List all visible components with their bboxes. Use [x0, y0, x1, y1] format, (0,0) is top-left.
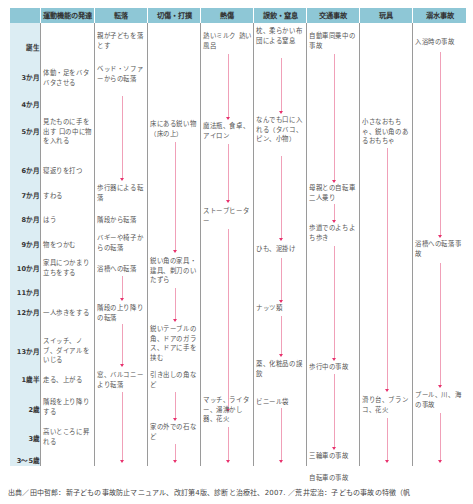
motor-cell: すわる: [43, 192, 93, 202]
falls-cell: 階段の上り降りの転落: [97, 304, 146, 323]
choking-cell: ひも、泥掛け: [256, 245, 305, 255]
motor-cell: 物をつかむ: [43, 241, 93, 251]
age-label: 13か月: [10, 348, 40, 357]
choking-cell: 薬、化粧品の誤飲: [256, 360, 305, 379]
continuation-arrow: [281, 58, 282, 113]
continuation-arrow: [281, 156, 282, 240]
age-label: 2歳: [10, 406, 40, 415]
divider: [40, 23, 41, 466]
traffic-cell: 歩行中の事故: [309, 363, 358, 373]
choking-cell: なんでも口に入れる（タバコ、ピン、小物）: [256, 116, 305, 145]
motor-cell: 見たものに手を出す 口の中に物を入れる: [43, 118, 93, 147]
divider: [306, 23, 307, 466]
continuation-arrow: [387, 418, 388, 462]
burns-cell: ストーブヒーター: [203, 207, 252, 226]
continuation-arrow: [228, 427, 229, 462]
divider: [359, 23, 360, 466]
falls-cell: 親が子どもを落とす: [97, 32, 146, 51]
age-label: 7か月: [10, 192, 40, 201]
source-citation: 出典／田中哲郎：新子どもの事故防止マニュアル、改訂第4版、診断と治療社、2007…: [8, 487, 473, 497]
traffic-cell: 母親との自転車二人乗り: [309, 184, 358, 203]
divider: [200, 23, 201, 466]
continuation-arrow: [440, 52, 441, 237]
continuation-arrow: [281, 408, 282, 462]
age-label: 8か月: [10, 216, 40, 225]
choking-cell: ナッツ類: [256, 304, 305, 314]
falls-cell: 窓、バルコニーより転落: [97, 371, 146, 390]
choking-cell: ビニール袋: [256, 398, 305, 408]
age-label: 11か月: [10, 289, 40, 298]
header-traffic: 交通事故: [307, 8, 359, 23]
continuation-arrow: [440, 413, 441, 462]
motor-cell: 体動・足をバタバタさせる: [43, 69, 93, 88]
divider: [147, 23, 148, 466]
header-corner: [10, 8, 40, 23]
age-label: 9か月: [10, 241, 40, 250]
continuation-arrow: [228, 144, 229, 202]
traffic-cell: 歩道でのよちよち歩き: [309, 224, 358, 243]
header-burns: 熱傷: [201, 8, 253, 23]
traffic-cell: 三輪車の事故: [309, 452, 358, 462]
continuation-arrow: [334, 204, 335, 222]
falls-cell: ベッド・ソファーからの転落: [97, 65, 146, 84]
falls-cell: 歩行器による転落: [97, 184, 146, 203]
age-label: 3歳: [10, 435, 40, 444]
continuation-arrow: [122, 324, 123, 366]
continuation-arrow: [228, 54, 229, 119]
header-toys: 玩具: [360, 8, 412, 23]
falls-cell: 浴槽への転落: [97, 265, 146, 275]
continuation-arrow: [175, 444, 176, 462]
motor-cell: 走る、上がる: [43, 376, 93, 386]
cuts-cell: 引き出しの角など: [150, 371, 199, 390]
toys-cell: 小さなおもちゃ、鋭い角のあるおもちゃ: [362, 118, 411, 147]
age-label: 1歳半: [10, 376, 40, 385]
continuation-arrow: [122, 392, 123, 462]
cuts-cell: 床にある鋭い物（床の上）: [150, 120, 199, 139]
cuts-cell: 鋭いテーブルの角、ドアのガラス、ドアに手を挟む: [150, 325, 199, 363]
age-label: 6か月: [10, 167, 40, 176]
header-motor: 運動機能の発達: [41, 8, 94, 23]
accident-age-table: 運動機能の発達 転落 切傷・打撲 熱傷 誤飲・窒息 交通事故 玩具 溺水事故 誕…: [10, 8, 466, 466]
burns-cell: 魔法瓶、食卓、アイロン: [203, 122, 252, 141]
choking-cell: 枕、柔らかい布団による窒息: [256, 27, 305, 46]
age-label: 12か月: [10, 309, 40, 318]
motor-cell: 寝返りを打つ: [43, 167, 93, 177]
age-label: 3～5歳: [10, 457, 40, 466]
header-cuts: 切傷・打撲: [148, 8, 200, 23]
traffic-cell: 自転車の事故: [309, 474, 358, 484]
continuation-arrow: [334, 374, 335, 449]
motor-cell: 一人歩きをする: [43, 309, 93, 319]
motor-cell: はう: [43, 216, 93, 226]
continuation-arrow: [122, 276, 123, 300]
divider: [94, 23, 95, 466]
motor-cell: 階段を上り降りする: [43, 398, 93, 417]
motor-cell: スイッチ、ノブ、ダイアルをいじる: [43, 337, 93, 366]
toys-cell: 滑り台、ブランコ、花火: [362, 396, 411, 415]
continuation-arrow: [122, 96, 123, 180]
continuation-arrow: [281, 258, 282, 302]
continuation-arrow: [387, 148, 388, 391]
drowning-cell: 浴槽への転落事故: [415, 240, 465, 259]
continuation-arrow: [175, 392, 176, 420]
continuation-arrow: [175, 142, 176, 252]
continuation-arrow: [334, 246, 335, 360]
divider: [412, 23, 413, 466]
header-falls: 転落: [95, 8, 147, 23]
continuation-arrow: [281, 316, 282, 356]
drowning-cell: プール、川、海の事故: [415, 391, 465, 410]
continuation-arrow: [228, 229, 229, 411]
traffic-cell: 自動車同乗中の事故: [309, 32, 358, 51]
burns-cell: 熱いミルク 熱い風呂: [203, 32, 252, 51]
cuts-cell: 家の外での石など: [150, 423, 199, 442]
header-drowning: 溺水事故: [413, 8, 466, 23]
falls-cell: 階段から転落: [97, 216, 146, 226]
motor-cell: 家具につかまり立ちをする: [43, 259, 93, 278]
drowning-cell: 入浴時の事故: [415, 38, 465, 48]
divider: [253, 23, 254, 466]
age-label: 10か月: [10, 265, 40, 274]
age-label: 5か月: [10, 128, 40, 137]
age-label: 3か月: [10, 74, 40, 83]
continuation-arrow: [175, 288, 176, 321]
continuation-arrow: [334, 54, 335, 182]
age-label: 4か月: [10, 101, 40, 110]
